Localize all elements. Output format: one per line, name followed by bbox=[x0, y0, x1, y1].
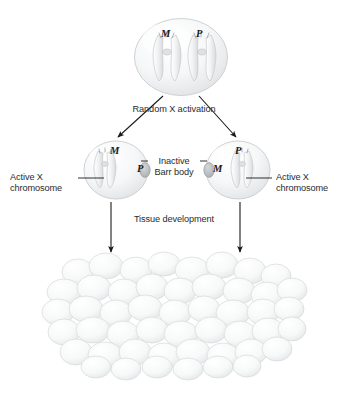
arrow-to-left-daughter bbox=[118, 96, 163, 137]
x-inactivation-diagram bbox=[0, 0, 348, 401]
chromosome-label-active-right: P bbox=[235, 145, 241, 156]
chromosome-label-maternal-top: M bbox=[161, 28, 170, 39]
chromosome-label-active-left: M bbox=[110, 145, 119, 156]
label-active-x-left-line1: Active X bbox=[10, 172, 43, 182]
label-active-x-left: Active X chromosome bbox=[10, 172, 76, 194]
label-active-x-right-line1: Active X bbox=[276, 172, 309, 182]
tissue-cell-mass bbox=[42, 252, 307, 380]
arrow-to-right-daughter bbox=[199, 96, 236, 137]
label-active-x-right-line2: chromosome bbox=[276, 183, 328, 193]
label-active-x-right: Active X chromosome bbox=[276, 172, 344, 194]
label-random-x-activation: Random X activation bbox=[108, 104, 240, 115]
label-tissue-development: Tissue development bbox=[110, 214, 238, 225]
label-inactive-barr-body: Inactive Barr body bbox=[143, 156, 205, 178]
progenitor-cell bbox=[135, 19, 228, 96]
random-x-activation-arrows bbox=[118, 96, 236, 137]
label-inactive-barr-line1: Inactive bbox=[159, 156, 190, 166]
label-inactive-barr-line2: Barr body bbox=[155, 167, 194, 177]
chromosome-label-paternal-top: P bbox=[196, 28, 202, 39]
label-active-x-left-line2: chromosome bbox=[10, 183, 62, 193]
tissue-development-arrows bbox=[111, 202, 240, 252]
chromosome-label-inactive-right: M bbox=[213, 163, 222, 174]
chromosome-label-inactive-left: P bbox=[137, 163, 143, 174]
